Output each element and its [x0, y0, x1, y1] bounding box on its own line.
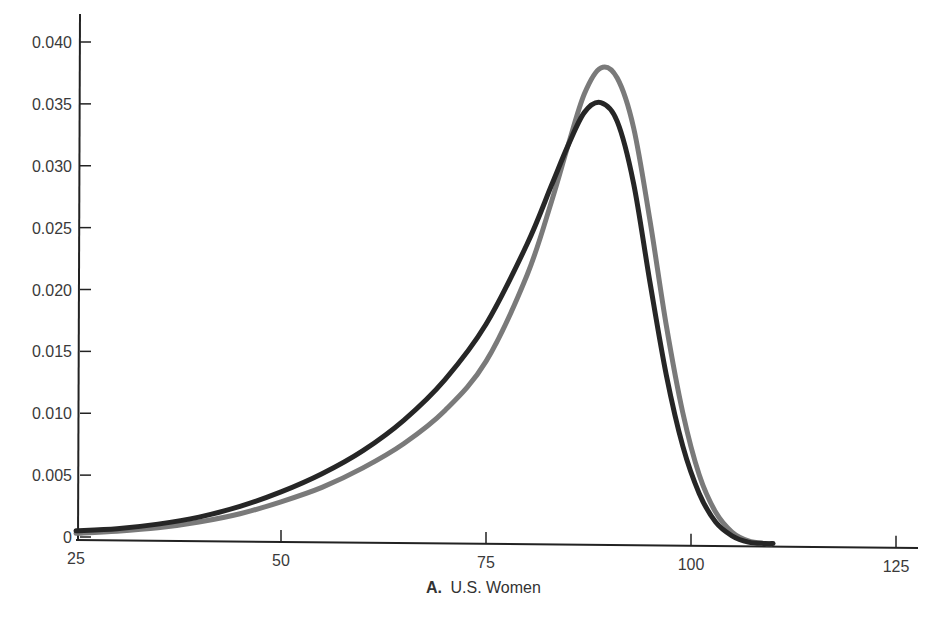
caption-text: U.S. Women [450, 579, 540, 596]
y-tick-label: 0 [63, 529, 72, 546]
x-axis-caption: A. U.S. Women [426, 579, 541, 596]
y-tick-label: 0.035 [32, 96, 72, 113]
x-tick-label: 100 [678, 556, 705, 573]
caption-prefix: A. [426, 579, 442, 596]
gray-curve-line [76, 67, 773, 544]
x-axis: 255075100125 [67, 530, 918, 575]
y-tick-label: 0.015 [32, 343, 72, 360]
x-tick-label: 75 [477, 554, 495, 571]
y-tick-label: 0.020 [32, 282, 72, 299]
y-tick-label: 0.010 [32, 405, 72, 422]
x-tick-label: 25 [67, 550, 85, 567]
y-axis-line [78, 14, 80, 541]
black-curve-line [76, 102, 773, 543]
x-tick-label: 50 [272, 552, 290, 569]
density-chart: 00.0050.0100.0150.0200.0250.0300.0350.04… [0, 0, 936, 623]
y-axis-ticks: 00.0050.0100.0150.0200.0250.0300.0350.04… [32, 34, 91, 546]
y-tick-label: 0.025 [32, 220, 72, 237]
series-layer [76, 67, 773, 544]
y-tick-label: 0.040 [32, 34, 72, 51]
x-tick-label: 125 [883, 558, 910, 575]
y-axis: 00.0050.0100.0150.0200.0250.0300.0350.04… [32, 14, 91, 546]
x-axis-ticks: 255075100125 [67, 530, 909, 575]
x-axis-line [76, 540, 918, 548]
y-tick-label: 0.005 [32, 467, 72, 484]
y-tick-label: 0.030 [32, 158, 72, 175]
